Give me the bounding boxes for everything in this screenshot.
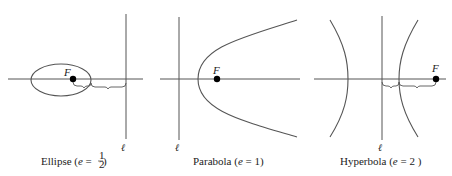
hyperbola-focus-label: F [431,62,439,74]
ellipse-panel: F ℓ Ellipse (e = 1 2 ) [8,14,143,170]
hyperbola-directrix-label: ℓ [378,142,382,153]
ellipse-focus-dot [70,76,76,82]
ellipse-curve [31,64,91,96]
parabola-directrix-label: ℓ [175,142,179,153]
parabola-panel: F ℓ Parabola (e = 1) [160,17,300,168]
parabola-focus-dot [214,76,220,82]
hyperbola-focus-dot [433,76,439,82]
ellipse-brace-curve-to-directrix [91,83,126,89]
hyperbola-brace-directrix-to-curve [382,82,399,88]
conic-sections-figure: F ℓ Ellipse (e = 1 2 ) F ℓ Parabola (e =… [0,0,452,176]
parabola-caption: Parabola (e = 1) [193,155,264,168]
parabola-focus-label: F [212,64,220,76]
hyperbola-brace-curve-to-focus [399,82,436,88]
hyperbola-caption: Hyperbola (e = 2 ) [340,155,422,168]
ellipse-focus-label: F [63,66,71,78]
ellipse-caption-suffix: ) [103,155,107,168]
ellipse-caption: Ellipse (e = [41,155,92,168]
ellipse-directrix-label: ℓ [121,142,125,153]
hyperbola-panel: F ℓ Hyperbola (e = 2 ) [314,16,446,168]
